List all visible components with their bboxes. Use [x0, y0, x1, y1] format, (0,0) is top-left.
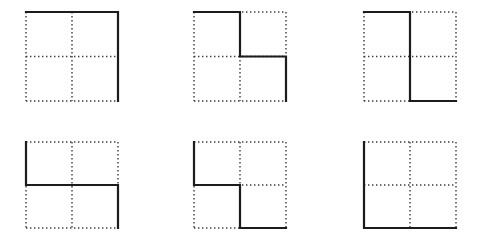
- figure-board: [0, 0, 490, 244]
- figure-6: [360, 138, 460, 232]
- figure-5-canvas: [190, 138, 290, 232]
- figure-1-dotted-grid: [26, 12, 118, 101]
- figure-4-canvas: [22, 138, 122, 232]
- figure-3-canvas: [360, 8, 460, 105]
- figure-1-canvas: [22, 8, 122, 105]
- figure-6-canvas: [360, 138, 460, 232]
- figure-3: [360, 8, 460, 105]
- figure-2: [190, 8, 290, 105]
- figure-5: [190, 138, 290, 232]
- figure-2-solid-path: [194, 12, 286, 101]
- figure-4: [22, 138, 122, 232]
- figure-2-canvas: [190, 8, 290, 105]
- figure-3-solid-path: [364, 12, 456, 101]
- figure-6-dotted-grid: [364, 142, 456, 228]
- figure-1: [22, 8, 122, 105]
